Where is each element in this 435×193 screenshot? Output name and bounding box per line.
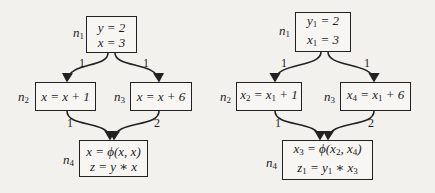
node-label-right-n1: n1 [279,23,290,39]
stmt: y1 = 2 [307,13,339,32]
node-left-n1: y = 2 x = 3 [86,16,137,53]
edge-label-right-n3-n4: 2 [368,116,374,131]
node-right-n1: y1 = 2 x1 = 3 [295,12,351,52]
diagram-canvas: n1 y = 2 x = 3 1 1 n2 x = x + 1 n3 x = x… [0,0,435,193]
edge-label-right-n2-n4: 1 [275,116,281,131]
edge-label-left-n3-n4: 2 [154,116,160,131]
edge-left-n1-n3 [115,53,159,81]
stmt: x4 = x1 + 6 [347,87,405,106]
stmt: y = 2 [98,20,126,35]
edge-right-n2-n4 [275,111,320,139]
stmt: x = 3 [98,35,126,50]
edge-left-n3-n4 [114,111,159,139]
node-label-left-n4: n4 [63,152,74,168]
node-right-n2: x2 = x1 + 1 [236,82,302,111]
stmt: x = ϕ(x, x) [86,144,140,159]
node-label-left-n2: n2 [18,89,29,105]
stmt: z = y ∗ x [90,159,137,174]
edge-label-left-n1-n2: 1 [79,56,85,71]
node-label-left-n1: n1 [73,25,84,41]
stmt: x = x + 6 [137,89,186,104]
node-right-n3: x4 = x1 + 6 [340,82,411,111]
edge-label-left-n1-n3: 1 [143,56,149,71]
stmt: x2 = x1 + 1 [240,87,298,106]
node-label-left-n3: n3 [114,89,125,105]
stmt: x3 = ϕ(x2, x4) [293,141,361,160]
node-right-n4: x3 = ϕ(x2, x4) z1 = y1 ∗ x3 [282,140,373,180]
stmt: z1 = y1 ∗ x3 [297,160,358,179]
edge-label-left-n2-n4: 1 [67,116,73,131]
stmt: x = x + 1 [41,89,90,104]
node-left-n2: x = x + 1 [35,82,96,111]
node-left-n4: x = ϕ(x, x) z = y ∗ x [79,140,148,177]
node-label-right-n2: n2 [220,89,231,105]
node-label-right-n4: n4 [266,155,277,171]
edge-left-n2-n4 [67,111,110,139]
edge-label-right-n1-n3: 1 [364,56,370,71]
edge-label-right-n1-n2: 1 [281,56,287,71]
edge-left-n1-n2 [67,53,108,81]
node-label-right-n3: n3 [324,89,335,105]
stmt: x1 = 3 [307,32,339,51]
node-left-n3: x = x + 6 [130,82,192,111]
